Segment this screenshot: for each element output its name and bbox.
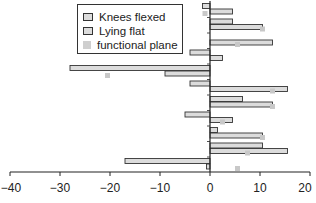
lying-flat-swatch-icon [83, 27, 93, 35]
x-tick-label: −40 [1, 181, 21, 195]
functional-plane-swatch-icon [83, 41, 91, 49]
legend-item-knees-flexed: Knees flexed [83, 10, 166, 24]
lying-flat-bar [210, 133, 263, 138]
knees-flexed-bar [70, 66, 210, 71]
knees-flexed-bar [125, 159, 210, 164]
x-tick-label: −30 [50, 181, 70, 195]
lying-flat-bar [210, 56, 223, 61]
legend-item-functional-plane: functional plane [83, 38, 178, 52]
x-tick-label: −10 [150, 181, 170, 195]
knees-flexed-bar [210, 143, 263, 148]
lying-flat-bar [210, 9, 233, 14]
x-tick-label: 20 [298, 181, 311, 195]
legend-label: Lying flat [99, 25, 145, 37]
legend-item-lying-flat: Lying flat [83, 24, 145, 38]
chart-legend: Knees flexed Lying flat functional plane [77, 4, 183, 54]
x-tick-label: 10 [253, 181, 266, 195]
lying-flat-bar [210, 102, 273, 107]
x-tick-label: 0 [207, 181, 214, 195]
knees-flexed-bar [203, 4, 211, 9]
knees-flexed-swatch-icon [83, 13, 93, 21]
knees-flexed-bar [210, 128, 218, 133]
knees-flexed-bar [185, 112, 210, 117]
functional-plane-marker [260, 135, 265, 140]
lying-flat-bar [210, 87, 288, 92]
functional-plane-marker [235, 42, 240, 47]
knees-flexed-bar [190, 50, 210, 55]
lying-flat-bar [210, 25, 263, 30]
functional-plane-marker [245, 151, 250, 156]
legend-label: functional plane [97, 39, 178, 51]
functional-plane-marker [270, 89, 275, 94]
functional-plane-marker [203, 11, 208, 16]
functional-plane-marker [105, 73, 110, 78]
functional-plane-marker [260, 27, 265, 32]
knees-flexed-bar [210, 19, 233, 24]
legend-label: Knees flexed [99, 11, 166, 23]
lying-flat-bar [165, 71, 210, 76]
lying-flat-bar [210, 40, 273, 45]
functional-plane-marker [235, 166, 240, 171]
knees-flexed-bar [190, 81, 210, 86]
x-tick-label: −20 [100, 181, 120, 195]
x-axis-ticks [10, 172, 310, 176]
knees-flexed-bar [210, 97, 243, 102]
functional-plane-marker [220, 120, 225, 125]
functional-plane-marker [270, 104, 275, 109]
